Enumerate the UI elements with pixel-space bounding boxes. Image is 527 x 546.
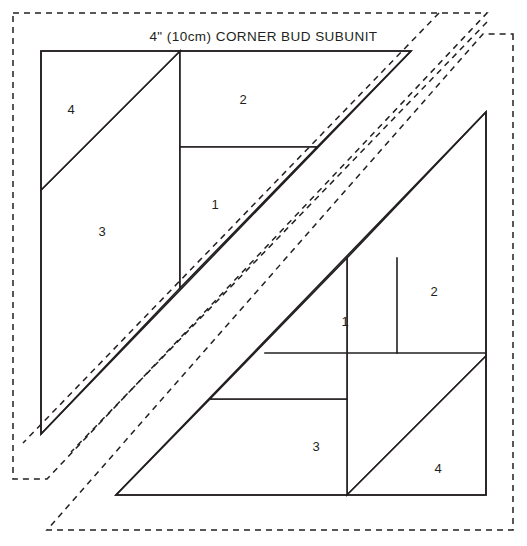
piece-label-3-upper-left: 3 — [98, 224, 105, 239]
pattern-drawing: 4 3 2 1 2 1 3 4 — [0, 0, 527, 546]
piece-label-3-lower-right: 3 — [312, 439, 319, 454]
piece-1-upper-left — [180, 147, 317, 288]
piece-label-2-lower-right: 2 — [430, 284, 437, 299]
piece-label-4-lower-right: 4 — [434, 461, 441, 476]
piece-label-1-lower-right: 1 — [341, 314, 348, 329]
corner-bud-subunit-diagram: 4" (10cm) CORNER BUD SUBUNIT 4 3 2 1 — [0, 0, 527, 546]
piece-1-lower-right — [210, 258, 347, 399]
piece-2-upper-left — [180, 51, 411, 147]
piece-label-2-upper-left: 2 — [239, 92, 246, 107]
piece-label-4-upper-left: 4 — [67, 102, 74, 117]
piece-label-1-upper-left: 1 — [211, 197, 218, 212]
